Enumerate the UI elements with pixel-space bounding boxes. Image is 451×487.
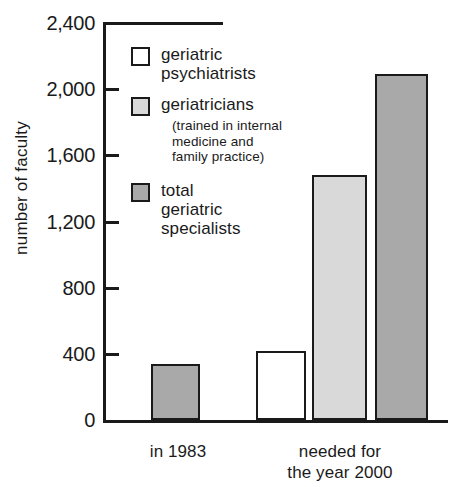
legend-sublabel-geriatricians: (trained in internal medicine and family… bbox=[172, 118, 331, 165]
y-tick-mark-2000 bbox=[106, 88, 119, 91]
bar-chart: number of faculty 04008001,2001,6002,000… bbox=[0, 0, 451, 487]
legend-label-geriatric-psychiatrists: geriatricpsychiatrists bbox=[161, 45, 256, 83]
legend-label-total-geriatric-specialists: totalgeriatricspecialists bbox=[161, 181, 241, 238]
y-tick-mark-800 bbox=[106, 287, 119, 290]
y-tick-label-0: 0 bbox=[84, 409, 95, 432]
legend-item-geriatricians: geriatricians bbox=[131, 95, 331, 116]
y-tick-label-1200: 1,200 bbox=[46, 210, 95, 233]
legend-item-geriatric-psychiatrists: geriatricpsychiatrists bbox=[131, 45, 331, 83]
x-axis-category-label-year-2000: needed for the year 2000 bbox=[250, 441, 430, 483]
legend-spacer-1 bbox=[131, 85, 331, 95]
y-tick-mark-1600 bbox=[106, 154, 119, 157]
y-tick-label-400: 400 bbox=[63, 342, 95, 365]
y-tick-mark-1200 bbox=[106, 221, 119, 224]
legend-label-geriatricians: geriatricians bbox=[161, 95, 254, 114]
y-tick-label-2400: 2,400 bbox=[46, 12, 95, 35]
legend-spacer-2 bbox=[131, 165, 331, 181]
y-tick-mark-400 bbox=[106, 353, 119, 356]
y-axis-title: number of faculty bbox=[12, 88, 32, 288]
axis-top-stub bbox=[103, 22, 223, 25]
y-tick-label-800: 800 bbox=[63, 276, 95, 299]
legend-swatch-white bbox=[131, 47, 150, 66]
legend-swatch-light-gray bbox=[131, 97, 150, 116]
chart-legend: geriatricpsychiatrists geriatricians (tr… bbox=[131, 45, 331, 240]
bar bbox=[151, 364, 200, 420]
legend-item-total-geriatric-specialists: totalgeriatricspecialists bbox=[131, 181, 331, 238]
y-tick-label-2000: 2,000 bbox=[46, 78, 95, 101]
y-tick-label-1600: 1,600 bbox=[46, 144, 95, 167]
bar bbox=[375, 74, 428, 420]
x-axis-line bbox=[103, 420, 448, 423]
bar bbox=[256, 351, 306, 420]
legend-swatch-dark-gray bbox=[131, 183, 150, 202]
x-axis-category-label-1983: in 1983 bbox=[118, 441, 238, 462]
